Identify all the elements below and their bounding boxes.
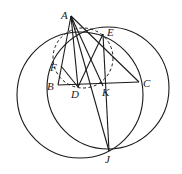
segment-df [61, 66, 78, 87]
point-label-k: K [101, 86, 110, 98]
point-label-e: E [106, 26, 114, 38]
left-circle [17, 32, 143, 158]
point-label-c: C [143, 77, 151, 89]
point-label-a: A [60, 9, 68, 21]
point-label-j: J [105, 153, 111, 165]
geometry-diagram: AEFBDKCJ [0, 0, 182, 174]
point-label-d: D [70, 88, 79, 100]
point-label-b: B [47, 80, 54, 92]
segment-bc [58, 82, 139, 85]
segment-ak [71, 16, 103, 86]
point-label-f: F [49, 61, 57, 73]
